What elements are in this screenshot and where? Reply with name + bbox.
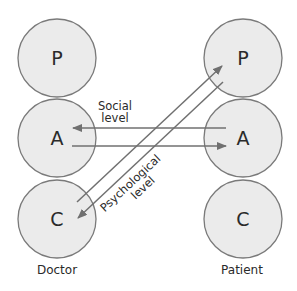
transaction-diagram: P A C Doctor P A C Patient Social level … (0, 0, 297, 291)
doctor-column: P A C Doctor (18, 19, 96, 277)
patient-adult-letter: A (237, 127, 250, 149)
psychological-level-arrows: Psychological level (77, 66, 223, 223)
patient-parent-letter: P (237, 47, 248, 69)
social-label-line2: level (101, 111, 128, 125)
doctor-adult-letter: A (51, 127, 64, 149)
doctor-label: Doctor (37, 263, 77, 277)
patient-label: Patient (221, 263, 263, 277)
doctor-parent-letter: P (51, 47, 62, 69)
patient-child-letter: C (236, 208, 249, 230)
patient-column: P A C Patient (204, 19, 282, 277)
doctor-child-letter: C (50, 208, 63, 230)
